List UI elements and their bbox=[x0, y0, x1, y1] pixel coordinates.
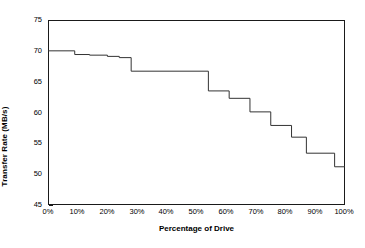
y-axis-title-text: Transfer Rate (MB/s) bbox=[0, 0, 9, 248]
y-tick-label-50: 50 bbox=[0, 170, 42, 178]
y-tick-label-60: 60 bbox=[0, 109, 42, 117]
x-axis-title: Percentage of Drive bbox=[48, 224, 345, 233]
y-tick-label-75: 75 bbox=[0, 16, 42, 24]
y-tick-label-55: 55 bbox=[0, 139, 42, 147]
y-tick-label-65: 65 bbox=[0, 78, 42, 86]
y-tick-mark-45 bbox=[49, 205, 53, 206]
transfer-rate-chart: Transfer Rate (MB/s) 45 50 55 60 65 70 7… bbox=[0, 0, 365, 248]
y-axis-title: Transfer Rate (MB/s) bbox=[0, 0, 20, 248]
transfer-rate-plot bbox=[48, 20, 345, 205]
y-tick-label-70: 70 bbox=[0, 47, 42, 55]
x-tick-label-100: 100% bbox=[324, 208, 364, 216]
transfer-rate-step-line bbox=[48, 51, 345, 167]
